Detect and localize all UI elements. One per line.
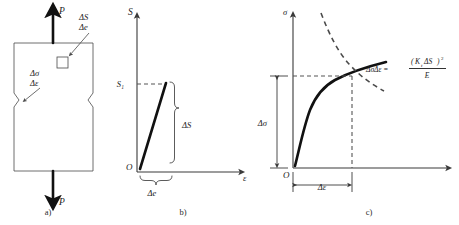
local-strain-label: Δε <box>29 78 39 88</box>
equation-numerator-k: K <box>414 57 421 66</box>
nominal-strain-label: Δe <box>78 22 88 32</box>
caption-b: b) <box>179 207 186 217</box>
load-label-top: P <box>58 6 65 16</box>
caption-a: a) <box>45 207 52 217</box>
panel-b-delta-e-label: Δe <box>147 188 157 198</box>
panel-b-origin-label: O <box>126 162 133 172</box>
load-label-bottom: P <box>58 197 65 207</box>
caption-c: c) <box>366 207 373 217</box>
figure-background <box>0 0 459 225</box>
equation-lhs: ΔσΔε = <box>365 65 388 74</box>
equation-numerator-delta-s: ΔS <box>423 57 432 66</box>
local-stress-label: Δσ <box>29 68 40 78</box>
nominal-stress-label: ΔS <box>78 12 89 22</box>
panel-c-delta-sigma-label: Δσ <box>257 118 268 128</box>
panel-b-tick-label: S₁ <box>117 79 124 89</box>
equation-denominator: E <box>424 71 430 80</box>
panel-c-origin-label: O <box>283 170 290 180</box>
figure-container: P P ΔS Δe Δσ Δε a) S ε O S₁ ΔS Δe <box>0 0 459 225</box>
neuber-rule-figure: P P ΔS Δe Δσ Δε a) S ε O S₁ ΔS Δe <box>0 0 459 225</box>
equation-numerator-close: ) <box>436 57 440 66</box>
panel-b-y-axis-label: S <box>128 7 133 17</box>
panel-b-delta-s-label: ΔS <box>181 120 192 130</box>
panel-c-delta-epsilon-label: Δε <box>317 182 327 192</box>
